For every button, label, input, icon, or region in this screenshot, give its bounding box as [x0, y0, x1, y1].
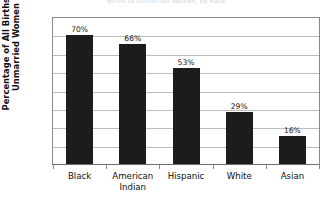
plot-area: 0102030405060708070%66%53%29%16% [52, 17, 320, 165]
bar[interactable] [173, 68, 200, 164]
x-axis-category-label: Asian [260, 171, 324, 182]
bar[interactable] [279, 136, 306, 164]
bar-chart: Births to Unmarried Women, by Race Perce… [0, 0, 332, 204]
x-axis-tick-mark [213, 165, 214, 169]
chart-title: Births to Unmarried Women, by Race [0, 0, 332, 4]
x-axis-tick-mark [53, 165, 54, 169]
x-axis-tick-mark [319, 165, 320, 169]
y-axis-title-line-2: Unmarried Women [11, 0, 21, 110]
bar[interactable] [119, 44, 146, 164]
bar[interactable] [226, 112, 253, 164]
x-axis-tick-mark [266, 165, 267, 169]
x-axis-tick-mark [159, 165, 160, 169]
y-axis-title-line-1: Percentage of All Births by [1, 0, 11, 110]
bar-value-label: 66% [113, 35, 153, 43]
x-axis-category-label-line: Indian [101, 182, 165, 193]
bar[interactable] [66, 35, 93, 164]
bar-value-label: 53% [166, 59, 206, 67]
y-axis-title: Percentage of All Births by Unmarried Wo… [0, 0, 22, 122]
x-axis-category-label-line: Asian [260, 171, 324, 182]
bar-value-label: 29% [219, 103, 259, 111]
x-axis-tick-mark [106, 165, 107, 169]
bar-value-label: 70% [60, 26, 100, 34]
bar-value-label: 16% [272, 127, 312, 135]
